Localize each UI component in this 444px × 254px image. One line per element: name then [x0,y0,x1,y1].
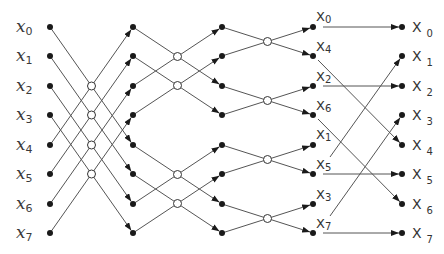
node-col1-row6 [130,201,136,207]
node-col2-row3 [219,112,225,118]
node-col1-row4 [130,142,136,148]
node-col2-row5 [219,171,225,177]
bitreverse-edge-4-to-1 [330,58,400,157]
output-label-X3: X3 [412,108,433,127]
output-label-X5: X5 [412,167,433,186]
node-col4-row1 [399,53,405,59]
bitrev-label-7: X7 [316,217,331,232]
node-col4-row4 [399,142,405,148]
node-col2-row7 [219,230,225,236]
stage-2-butterfly-junction [174,82,182,90]
bitrev-label-1: X4 [316,40,331,55]
signal-flow-graph [0,0,444,254]
node-col2-row6 [219,201,225,207]
node-col1-row0 [130,24,136,30]
node-col2-row1 [219,53,225,59]
node-col4-row6 [399,201,405,207]
output-label-X6: X6 [412,197,433,216]
node-col4-row5 [399,171,405,177]
node-col0-row5 [47,171,53,177]
node-col4-row7 [399,230,405,236]
bitrev-label-5: X5 [316,158,331,173]
input-label-x7: x7 [16,224,33,243]
node-col4-row0 [399,24,405,30]
node-col0-row1 [47,53,53,59]
node-col1-row1 [130,53,136,59]
bitrev-label-0: X0 [316,10,331,25]
input-label-x1: x1 [16,47,33,66]
node-col1-row3 [130,112,136,118]
stage-2-butterfly-junction [174,200,182,208]
node-col4-row2 [399,83,405,89]
node-col1-row7 [130,230,136,236]
output-label-X1: X1 [412,49,433,68]
bitrev-label-4: X1 [316,128,331,143]
bitrev-label-3: X6 [316,99,331,114]
stage-1-butterfly-junction [88,111,96,119]
node-col0-row3 [47,112,53,118]
bitreverse-edge-6-to-3 [330,117,400,216]
stage-3-butterfly-junction [264,97,272,105]
node-col2-row0 [219,24,225,30]
output-label-X2: X2 [412,79,433,98]
node-col4-row3 [399,112,405,118]
node-col1-row2 [130,83,136,89]
stage-1-butterfly-junction [88,82,96,90]
node-col2-row4 [219,142,225,148]
stage-2-butterfly-junction [174,53,182,61]
node-col0-row6 [47,201,53,207]
stage-2-butterfly-junction [174,171,182,179]
node-col1-row5 [130,171,136,177]
output-label-X7: X7 [412,226,433,245]
input-label-x0: x0 [16,18,33,37]
bitrev-label-2: X2 [316,70,331,85]
bitrev-label-6: X3 [316,188,331,203]
node-col0-row2 [47,83,53,89]
input-label-x4: x4 [16,136,33,155]
node-col0-row7 [47,230,53,236]
stage-1-butterfly-junction [88,170,96,178]
input-label-x5: x5 [16,165,33,184]
input-label-x6: x6 [16,195,33,214]
input-label-x2: x2 [16,77,33,96]
stage-3-butterfly-junction [264,38,272,46]
stage-3-butterfly-junction [264,215,272,223]
output-label-X4: X4 [412,138,433,157]
node-col0-row0 [47,24,53,30]
output-label-X0: X0 [412,20,433,39]
node-col2-row2 [219,83,225,89]
stage-1-butterfly-junction [88,141,96,149]
fft-butterfly-diagram: x0 x1 x2 x3 x4 x5 x6 x7 X0 X4 X2 X6 X1 X… [0,0,444,254]
node-col0-row4 [47,142,53,148]
stage-3-butterfly-junction [264,156,272,164]
input-label-x3: x3 [16,106,33,125]
